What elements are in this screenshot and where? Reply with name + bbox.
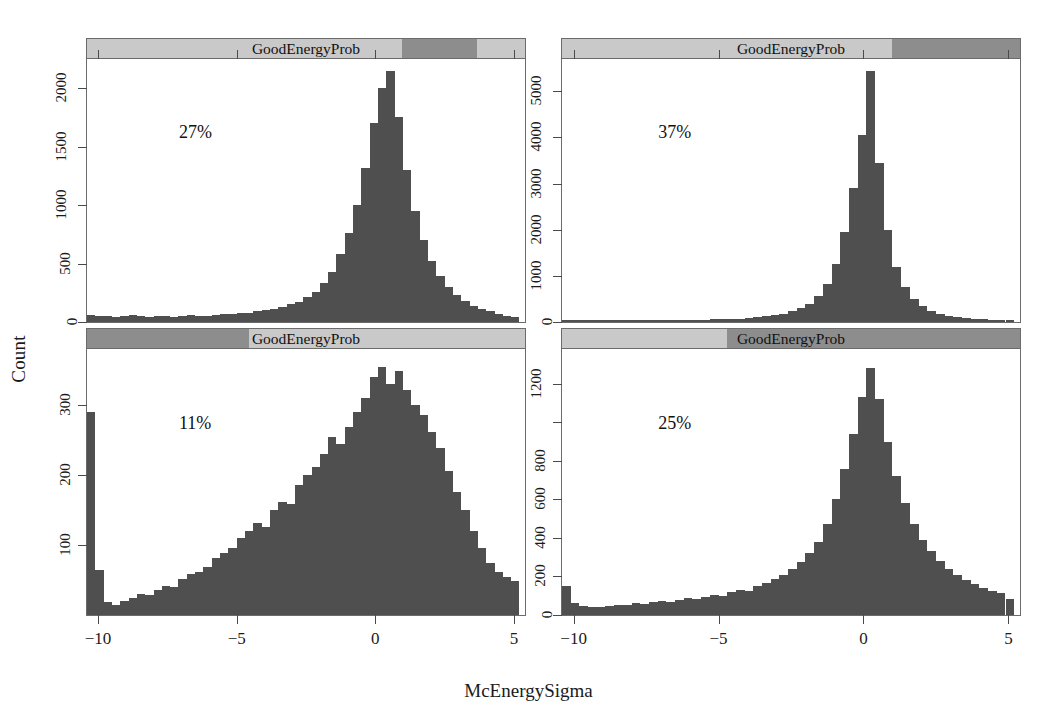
histogram-bar (245, 313, 253, 322)
histogram-bar (495, 572, 503, 615)
histogram-bar (562, 586, 571, 615)
histogram-bar (120, 316, 128, 322)
strip-label: GoodEnergyProb (87, 329, 525, 348)
histogram-bar (892, 267, 901, 322)
histogram-bar (312, 467, 320, 615)
y-axis-title-text: Count (8, 335, 30, 382)
histogram-bar (120, 601, 128, 615)
histogram-bar (129, 315, 137, 322)
plot-area-bottom-right: 25% 02004006008001200 −10−505 (561, 349, 1021, 616)
histogram-bar (328, 272, 336, 322)
strip-header-bottom-right: GoodEnergyProb (561, 328, 1021, 349)
histogram-bar (212, 558, 220, 615)
histogram-bar (710, 595, 719, 615)
histogram-bar (771, 315, 780, 322)
panel-top-right: GoodEnergyProb 37% 010002000300040005000 (561, 38, 1021, 323)
histogram-bar (953, 575, 962, 615)
plot-area-top-right: 37% 010002000300040005000 (561, 59, 1021, 323)
histogram-bar (170, 587, 178, 615)
histogram-bar (237, 538, 245, 615)
panel-annotation: 37% (658, 122, 691, 143)
histogram-bar (295, 302, 303, 322)
histogram-bar (649, 320, 658, 322)
histogram-bar (771, 579, 780, 615)
histogram-bar (395, 117, 403, 322)
histogram-bar (762, 583, 771, 615)
histogram-bar (805, 553, 814, 615)
histogram-bar (212, 315, 220, 322)
y-axis-tick-label: 0 (544, 313, 552, 330)
histogram-bar (228, 314, 236, 322)
histogram-bar (336, 254, 344, 322)
histogram-bar (278, 502, 286, 615)
histogram-bar (145, 595, 153, 615)
histogram-bar (945, 569, 954, 615)
panel-grid: GoodEnergyProb 27% 0500100015002000 Good… (86, 38, 1021, 626)
histogram-bar (675, 600, 684, 615)
histogram-bar (436, 448, 444, 615)
y-axis-tick (553, 91, 562, 92)
histogram-bar (614, 320, 623, 322)
histogram-bar (919, 306, 928, 322)
y-axis-tick (553, 276, 562, 277)
y-axis-tick-label: 800 (529, 452, 552, 469)
y-axis-tick-label: 4000 (521, 128, 551, 145)
histogram-bar (361, 398, 369, 615)
histogram-bar (428, 261, 436, 322)
histogram-bar (370, 123, 378, 322)
histogram-bar (814, 296, 823, 322)
histogram-bar (320, 454, 328, 615)
histogram-bar (453, 492, 461, 615)
histogram-bar (710, 319, 719, 322)
histogram-bar (503, 577, 511, 615)
histogram-bar (436, 276, 444, 322)
y-axis-tick (553, 576, 562, 577)
histogram-bar (840, 232, 849, 322)
y-axis-tick-label: 0 (69, 313, 77, 330)
panel-bottom-right: GoodEnergyProb 25% 02004006008001200 −10… (561, 328, 1021, 616)
histogram-bars (562, 59, 1020, 322)
y-axis-tick (78, 205, 87, 206)
histogram-bar (253, 523, 261, 615)
histogram-bar (1006, 320, 1015, 322)
histogram-bar (461, 510, 469, 615)
histogram-bar (823, 284, 832, 322)
histogram-bar (936, 314, 945, 322)
histogram-bar (187, 574, 195, 615)
histogram-bar (378, 88, 386, 322)
y-axis-tick (553, 538, 562, 539)
histogram-bar (470, 306, 478, 322)
x-axis-tick (1008, 615, 1009, 624)
histogram-bar (137, 594, 145, 615)
y-axis-tick-label: 1000 (46, 196, 76, 213)
x-axis-tick (375, 615, 376, 624)
histogram-bar (875, 399, 884, 615)
y-axis-tick (78, 545, 87, 546)
histogram-bar (486, 563, 494, 615)
x-axis-tick (98, 615, 99, 624)
histogram-bar (370, 377, 378, 615)
strip-label: GoodEnergyProb (562, 329, 1020, 348)
histogram-bar (701, 320, 710, 322)
histogram-bars (87, 349, 525, 615)
histogram-bar (623, 605, 632, 615)
histogram-bar (684, 598, 693, 615)
y-axis-tick (553, 184, 562, 185)
histogram-bar (910, 524, 919, 615)
histogram-bar (411, 211, 419, 322)
y-axis-tick-label: 100 (54, 536, 77, 553)
histogram-bar (112, 317, 120, 322)
histogram-bar (779, 314, 788, 322)
histogram-bar (988, 591, 997, 615)
histogram-bar (997, 320, 1006, 322)
histogram-bar (511, 317, 519, 322)
histogram-bar (403, 170, 411, 322)
histogram-bar (571, 603, 580, 615)
x-axis-tick-label: 0 (859, 629, 868, 649)
y-axis-tick (553, 384, 562, 385)
histogram-bar (203, 316, 211, 322)
histogram-bar (849, 188, 858, 322)
y-axis-tick-label: 2000 (46, 79, 76, 96)
panel-annotation: 25% (658, 413, 691, 434)
histogram-bar (220, 553, 228, 615)
